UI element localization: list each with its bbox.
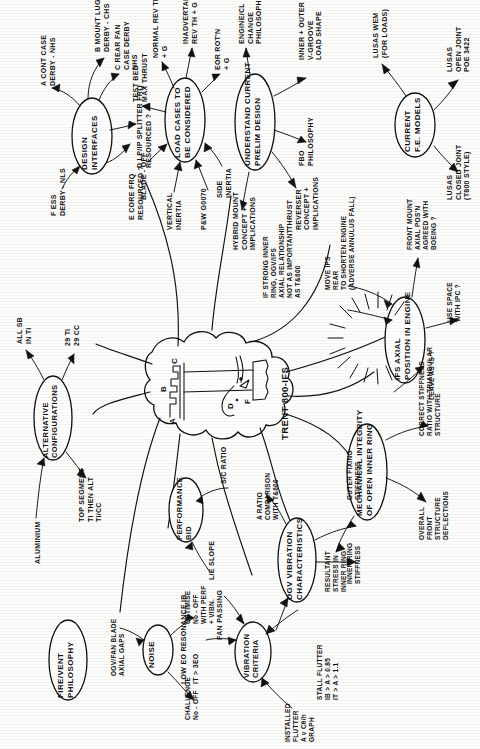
svg-text:INNER + OUTERV-GROOVELOAD SHAP: INNER + OUTERV-GROOVELOAD SHAPE (298, 2, 322, 60)
node-label-design-interfaces: DESIGN (80, 137, 89, 170)
svg-text:LUSAS WEM(FOR LOADS): LUSAS WEM(FOR LOADS) (372, 9, 389, 58)
svg-text:STALL FLUTTERIB > A > 0.85IT >: STALL FLUTTERIB > A > 0.85IT > A > 1.1 (316, 644, 339, 700)
svg-text:ENGINE/CLCHANGEPHILOSOPHY: ENGINE/CLCHANGEPHILOSOPHY (238, 0, 262, 44)
svg-text:NORMAL REV TH+ G: NORMAL REV TH+ G (152, 0, 168, 58)
mindmap-canvas: A B C D F TRENT 800-IFS DESIGN INTERFACE… (0, 0, 480, 749)
svg-text:INSTALLEDFLUTTERA v Cθ/hGRAPH: INSTALLEDFLUTTERA v Cθ/hGRAPH (284, 703, 315, 742)
svg-text:ALUMINIUM: ALUMINIUM (34, 521, 41, 564)
svg-text:LOAD CASES TOBE CONSIDERED: LOAD CASES TOBE CONSIDERED (173, 86, 192, 158)
svg-text:B MOUNT LUGSDERBY - CHS: B MOUNT LUGSDERBY - CHS (94, 0, 110, 52)
svg-text:C: C (170, 358, 179, 364)
svg-text:29 Ti29 CC: 29 Ti29 CC (64, 325, 80, 346)
node-performance-bid[interactable]: PERFORMANCEBID S/C RATIO L/E SLOPE (169, 446, 228, 580)
svg-text:A CONT CASEDERBY - NHS: A CONT CASEDERBY - NHS (40, 35, 56, 86)
node-design-interfaces[interactable]: DESIGN INTERFACES A CONT CASEDERBY - NHS… (40, 0, 152, 220)
svg-text:IT > 3EO: IT > 3EO (192, 653, 199, 684)
svg-text:USE SPACEWITH IPC ?: USE SPACEWITH IPC ? (446, 282, 461, 322)
svg-text:VERTICALINERTIA: VERTICALINERTIA (166, 192, 182, 230)
svg-text:TOP SEGMENTTi THEN ALTTi/CC: TOP SEGMENTTi THEN ALTTi/CC (78, 468, 102, 522)
scanned-mindmap-page: A B C D F TRENT 800-IFS DESIGN INTERFACE… (0, 0, 480, 749)
svg-text:A RATIOCOMPARISONWITH T&600: A RATIOCOMPARISONWITH T&600 (256, 473, 279, 520)
svg-text:ALL SBIN Ti: ALL SBIN Ti (16, 317, 32, 344)
node-mechanical-integrity[interactable]: MECHANICAL INTEGRITYOF OPEN INNER RING C… (324, 347, 449, 592)
svg-text:EOR ROT'N+ G: EOR ROT'N+ G (214, 29, 230, 70)
svg-text:C REAR FANCASE DERBYNHS: C REAR FANCASE DERBYNHS (114, 21, 138, 70)
svg-text:TRENT 800-IFS: TRENT 800-IFS (279, 367, 290, 440)
svg-text:LUSASOPEN JOINTPOE 3422: LUSASOPEN JOINTPOE 3422 (446, 26, 470, 72)
node-current-fe-models[interactable]: CURRENTF.E. MODELS LUSAS WEM(FOR LOADS) … (372, 9, 471, 200)
svg-text:INADVERTANTREV TH + G: INADVERTANTREV TH + G (182, 0, 198, 44)
svg-text:P&W G0070: P&W G0070 (200, 188, 207, 230)
svg-text:IF STRONG INNERRING, OGV/IFSAX: IF STRONG INNERRING, OGV/IFSAXIAL RELATI… (262, 223, 301, 298)
node-alternative-configurations[interactable]: ALTERNATIVECONFIGURATIONS ALL SBIN Ti 29… (16, 317, 102, 564)
svg-text:OPTIMISENo - OFFWITH PERF+ VIB: OPTIMISENo - OFFWITH PERF+ VIBN. (184, 586, 215, 624)
svg-text:SIDEINERTIA: SIDEINERTIA (216, 168, 232, 198)
svg-text:MOVE IPSREARTO SHORTEN ENGINE(: MOVE IPSREARTO SHORTEN ENGINE(ADVERSE AN… (324, 196, 356, 290)
svg-text:B: B (159, 386, 168, 392)
svg-text:L/E SLOPE: L/E SLOPE (208, 541, 215, 580)
svg-text:D: D (226, 403, 235, 409)
svg-text:FRONT MOUNTAXIAL POS'NAGREED W: FRONT MOUNTAXIAL POS'NAGREED WITHBOEING … (406, 199, 437, 250)
svg-text:F: F (243, 399, 252, 404)
svg-text:INNER RINGSTIFFNESS: INNER RINGSTIFFNESS (346, 543, 361, 584)
svg-text:FAN PASSING: FAN PASSING (216, 590, 223, 640)
svg-text:RESULTANTSTRESS ININNER RING: RESULTANTSTRESS ININNER RING (324, 551, 347, 592)
svg-text:S/C RATIO: S/C RATIO (220, 446, 227, 484)
node-fire-vent-philosophy[interactable]: FIRE/VENTPHILOSOPHY (49, 620, 87, 700)
svg-text:A: A (168, 418, 177, 424)
svg-text:F ESSDERBY - NLS: F ESSDERBY - NLS (50, 168, 66, 216)
center-label: TRENT 800-IFS (279, 367, 290, 440)
mindmap-svg: A B C D F TRENT 800-IFS DESIGN INTERFACE… (0, 0, 480, 749)
svg-text:LUSASCLOSED JOINT(T800 STYLE): LUSASCLOSED JOINT(T800 STYLE) (446, 144, 471, 200)
node-ogv-vibration[interactable]: OGV VIBRATIONCHARACTERISTICS OUTER FIXIN… (256, 450, 361, 700)
central-cloud (145, 332, 293, 439)
svg-text:THRUSTREVERSERCONCEPT +IMPLICA: THRUSTREVERSERCONCEPT +IMPLICATIONS (286, 177, 319, 230)
svg-text:INTERFACES: INTERFACES (90, 115, 99, 170)
svg-text:BLADE - OFF: BLADE - OFF (140, 152, 147, 200)
svg-text:NOISE: NOISE (147, 641, 156, 668)
node-noise[interactable]: NOISE OGV/FAN BLADEAXIAL GAPS OPTIMISENo… (110, 586, 215, 720)
svg-text:VIBRATIONCRITERIA: VIBRATIONCRITERIA (242, 634, 260, 678)
node-understand-prelim[interactable]: UNDERSTAND CURRENTPRELIM DESIGN ENGINE/C… (232, 0, 322, 250)
svg-text:OGV/FAN BLADEAXIAL GAPS: OGV/FAN BLADEAXIAL GAPS (110, 618, 125, 676)
